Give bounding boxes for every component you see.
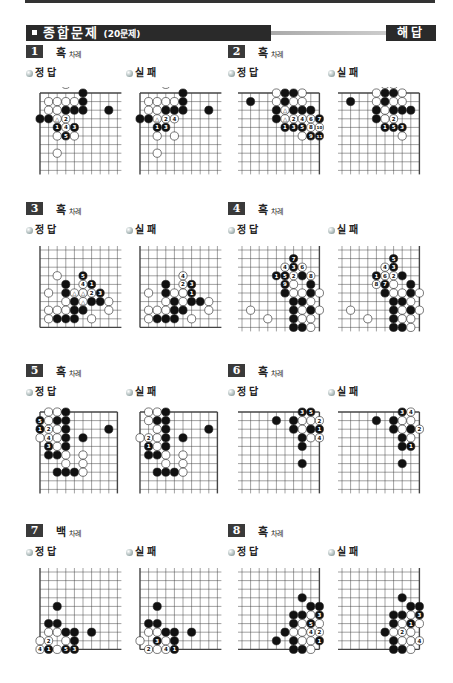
- black-stone: [381, 289, 389, 297]
- black-stone: [407, 425, 415, 433]
- white-stone: △: [70, 289, 78, 297]
- black-stone: 1: [170, 645, 178, 653]
- problem-number: 7: [26, 524, 43, 537]
- black-stone: [290, 89, 298, 97]
- svg-text:6: 6: [309, 116, 313, 122]
- black-stone: [162, 425, 170, 433]
- svg-text:1: 1: [172, 646, 176, 652]
- black-stone: [315, 602, 323, 610]
- black-stone: [398, 460, 406, 468]
- problem-header: 8흑차례: [228, 524, 428, 538]
- svg-text:2: 2: [392, 116, 396, 122]
- white-stone: [153, 442, 161, 450]
- black-stone: [53, 602, 61, 610]
- white-stone: [45, 306, 53, 314]
- svg-text:3: 3: [300, 409, 304, 415]
- black-stone: [45, 620, 53, 628]
- problem-number: 4: [228, 202, 245, 215]
- problem-7: 7백차례정 답24153실 패3241: [26, 524, 226, 538]
- white-stone: [298, 306, 306, 314]
- black-stone: [170, 468, 178, 476]
- white-stone: [398, 98, 406, 106]
- black-stone: [390, 637, 398, 645]
- white-stone: △: [79, 289, 87, 297]
- black-stone: [179, 98, 187, 106]
- bullet-ball-icon: [126, 389, 133, 396]
- svg-text:8: 8: [309, 124, 313, 130]
- white-stone: 2: [45, 637, 53, 645]
- go-board: 21: [134, 406, 223, 495]
- svg-text:5: 5: [64, 133, 68, 139]
- white-stone: 10: [315, 123, 323, 131]
- black-stone: [205, 425, 213, 433]
- black-stone: [70, 298, 78, 306]
- white-stone: [36, 434, 44, 442]
- problem-8: 8흑차례정 답35421실 패3124: [228, 524, 428, 538]
- black-stone: [307, 289, 315, 297]
- svg-text:3: 3: [292, 124, 296, 130]
- white-stone: [62, 451, 70, 459]
- go-board-diagram: 24153: [34, 566, 123, 655]
- white-stone: [53, 149, 61, 157]
- white-stone: 6: [307, 115, 315, 123]
- white-stone: [62, 87, 70, 89]
- svg-text:2: 2: [417, 426, 421, 432]
- variant-fail: 실 패3421: [328, 386, 428, 398]
- white-stone: [170, 289, 178, 297]
- white-stone: [315, 306, 323, 314]
- white-stone: [45, 628, 53, 636]
- white-stone: 2: [290, 272, 298, 280]
- white-stone: [153, 408, 161, 416]
- black-stone: [272, 115, 280, 123]
- svg-text:1: 1: [274, 273, 278, 279]
- black-stone: [170, 306, 178, 314]
- white-stone: [298, 425, 306, 433]
- black-stone: [398, 645, 406, 653]
- problem-number: 5: [26, 364, 43, 377]
- go-board: 3241: [134, 566, 223, 655]
- white-stone: 4: [381, 263, 389, 271]
- black-stone: [398, 611, 406, 619]
- white-stone: [45, 98, 53, 106]
- black-stone: [79, 98, 87, 106]
- white-stone: [407, 417, 415, 425]
- problem-number: 3: [26, 202, 43, 215]
- black-stone: 1: [315, 425, 323, 433]
- turn-label: 차례: [271, 208, 283, 216]
- black-stone: 3: [96, 289, 104, 297]
- svg-text:2: 2: [147, 435, 151, 441]
- black-stone: [62, 628, 70, 636]
- white-stone: [315, 289, 323, 297]
- problem-number: 8: [228, 524, 245, 537]
- black-stone: [70, 628, 78, 636]
- svg-text:2: 2: [392, 273, 396, 279]
- white-stone: [170, 132, 178, 140]
- black-stone: 9: [307, 132, 315, 140]
- white-stone: [398, 425, 406, 433]
- section-header: 종합문제 (20문제) 해답: [26, 25, 436, 41]
- turn-label: 차례: [69, 208, 81, 216]
- white-stone: 4: [79, 280, 87, 288]
- white-stone: 4: [381, 87, 389, 89]
- black-stone: [372, 417, 380, 425]
- svg-text:1: 1: [47, 646, 51, 652]
- variant-label: 실 패: [126, 67, 226, 79]
- go-board: 4231: [134, 244, 223, 333]
- white-stone: [153, 98, 161, 106]
- white-stone: [162, 87, 170, 89]
- svg-text:5: 5: [392, 124, 396, 130]
- black-stone: 7: [315, 115, 323, 123]
- white-stone: [205, 298, 213, 306]
- svg-text:9: 9: [283, 281, 287, 287]
- go-board: 3124: [336, 566, 425, 655]
- white-stone: [390, 628, 398, 636]
- black-stone: [153, 468, 161, 476]
- white-stone: [307, 637, 315, 645]
- problem-number: 1: [26, 45, 43, 58]
- black-stone: [390, 611, 398, 619]
- white-stone: [53, 408, 61, 416]
- white-stone: [390, 289, 398, 297]
- black-stone: [62, 289, 70, 297]
- problem-header: 3흑차례: [26, 202, 226, 216]
- white-stone: [272, 89, 280, 97]
